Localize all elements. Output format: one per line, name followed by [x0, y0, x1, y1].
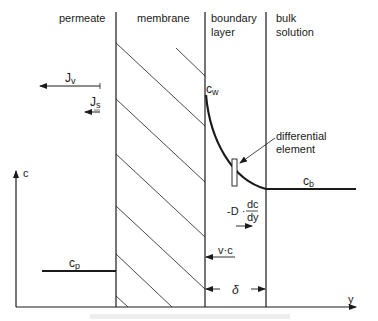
convection-label: v·c — [218, 244, 233, 256]
differential-label-line2: element — [276, 143, 315, 155]
membrane-hatching — [116, 43, 205, 307]
diffusion-denominator: dy — [247, 211, 259, 223]
figure-caption-faded — [90, 314, 290, 319]
cb-label: cb — [303, 174, 314, 189]
region-label-boundary: boundary — [211, 12, 257, 24]
differential-element — [232, 159, 237, 186]
region-label-solution: solution — [276, 26, 314, 38]
region-label-membrane: membrane — [137, 12, 190, 24]
x-axis-label: y — [348, 293, 354, 305]
diffusion-numerator: dc — [247, 198, 259, 210]
cp-label: cp — [69, 256, 80, 271]
region-label-layer: layer — [211, 26, 235, 38]
region-label-bulk: bulk — [276, 12, 297, 24]
delta-label: δ — [232, 283, 239, 297]
concentration-polarization-diagram: permeate membrane boundary layer bulk so… — [0, 0, 378, 321]
differential-pointer — [240, 138, 275, 163]
y-axis-label: c — [23, 167, 29, 179]
region-label-permeate: permeate — [59, 12, 105, 24]
cw-label: cw — [206, 82, 219, 97]
diffusion-prefix: -D · — [227, 205, 245, 217]
jv-label: Jv — [65, 71, 76, 86]
differential-label-line1: differential — [276, 130, 327, 142]
js-label: Js — [90, 95, 101, 110]
